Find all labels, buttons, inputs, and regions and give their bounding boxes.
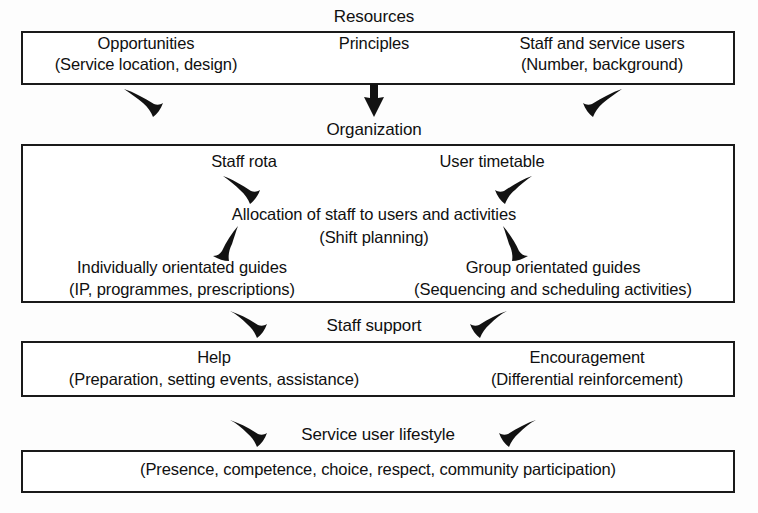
arrow-resources-to-organization-right xyxy=(578,86,624,120)
staff-support-encouragement-detail: (Differential reinforcement) xyxy=(491,369,683,390)
staff-support-help-detail: (Preparation, setting events, assistance… xyxy=(69,369,359,390)
band-label-organization: Organization xyxy=(326,119,421,140)
arrow-resources-to-organization-center xyxy=(362,84,386,118)
organization-group-guides-heading: Group orientated guides xyxy=(466,257,641,278)
band-label-service-user-lifestyle: Service user lifestyle xyxy=(301,424,455,445)
staff-support-encouragement-heading: Encouragement xyxy=(529,347,644,368)
resources-opportunities-detail: (Service location, design) xyxy=(55,54,238,75)
arrow-organization-to-staff-support-left xyxy=(228,309,272,339)
organization-individual-guides-detail: (IP, programmes, prescriptions) xyxy=(69,279,295,300)
arrow-user-timetable-to-allocation xyxy=(490,174,534,206)
arrow-staff-rota-to-allocation xyxy=(221,174,265,206)
organization-individual-guides-heading: Individually orientated guides xyxy=(77,257,287,278)
resources-staff-users-detail: (Number, background) xyxy=(521,54,683,75)
resources-opportunities-heading: Opportunities xyxy=(98,33,195,54)
organization-user-timetable: User timetable xyxy=(440,151,545,172)
resources-staff-users-heading: Staff and service users xyxy=(519,33,684,54)
organization-group-guides-detail: (Sequencing and scheduling activities) xyxy=(414,279,692,300)
organization-shift-planning: (Shift planning) xyxy=(319,227,428,248)
resources-principles-heading: Principles xyxy=(339,33,410,54)
staff-support-help-heading: Help xyxy=(197,347,231,368)
arrow-resources-to-organization-left xyxy=(122,86,168,120)
arrow-organization-to-staff-support-right xyxy=(465,309,509,339)
service-user-lifestyle-detail: (Presence, competence, choice, respect, … xyxy=(140,459,616,480)
flow-diagram: Resources Opportunities (Service locatio… xyxy=(0,0,758,513)
arrow-staff-support-to-lifestyle-right xyxy=(494,418,538,448)
arrow-staff-support-to-lifestyle-left xyxy=(228,418,272,448)
band-label-resources: Resources xyxy=(334,6,414,27)
band-label-staff-support: Staff support xyxy=(327,315,422,336)
organization-allocation: Allocation of staff to users and activit… xyxy=(232,204,516,225)
organization-staff-rota: Staff rota xyxy=(211,151,277,172)
